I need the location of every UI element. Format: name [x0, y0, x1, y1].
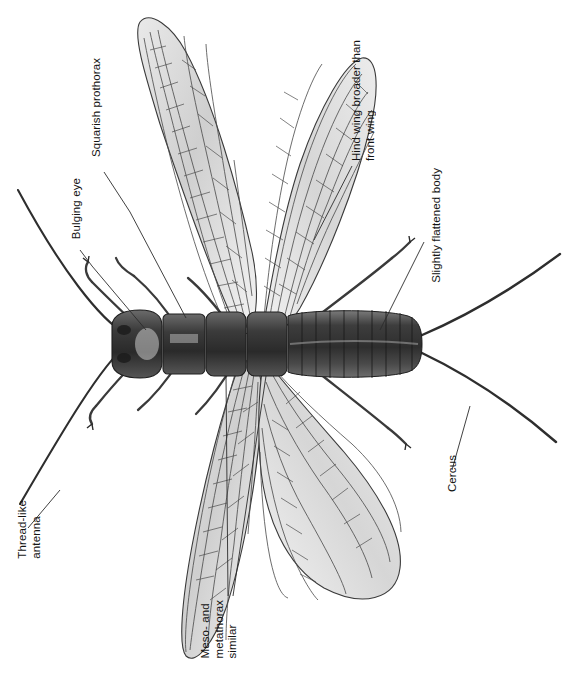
leader-meso-metathorax-b: [233, 376, 266, 596]
leader-meso-metathorax-a: [226, 376, 228, 596]
label-cercus: Cercus: [446, 455, 460, 492]
leader-slightly-flattened-body: [380, 242, 424, 330]
label-meso-and-metathorax-similar: Meso- and metathorax similar: [199, 600, 240, 659]
label-thread-like-antenna: Thread-like antenna: [16, 500, 43, 559]
leader-lines-group: [0, 0, 569, 692]
leader-bulging-eye: [80, 250, 146, 330]
leader-squarish-prothorax: [104, 172, 186, 318]
label-slightly-flattened-body: Slightly flattened body: [430, 168, 444, 283]
illustration-canvas: Thread-like antenna Bulging eye Squarish…: [0, 0, 569, 692]
label-hind-wing-broader-than-front-wing: Hind wing broader than front wing: [350, 40, 377, 161]
leader-hind-wing-broader: [314, 166, 352, 240]
label-squarish-prothorax: Squarish prothorax: [90, 58, 104, 157]
label-bulging-eye: Bulging eye: [70, 178, 84, 239]
